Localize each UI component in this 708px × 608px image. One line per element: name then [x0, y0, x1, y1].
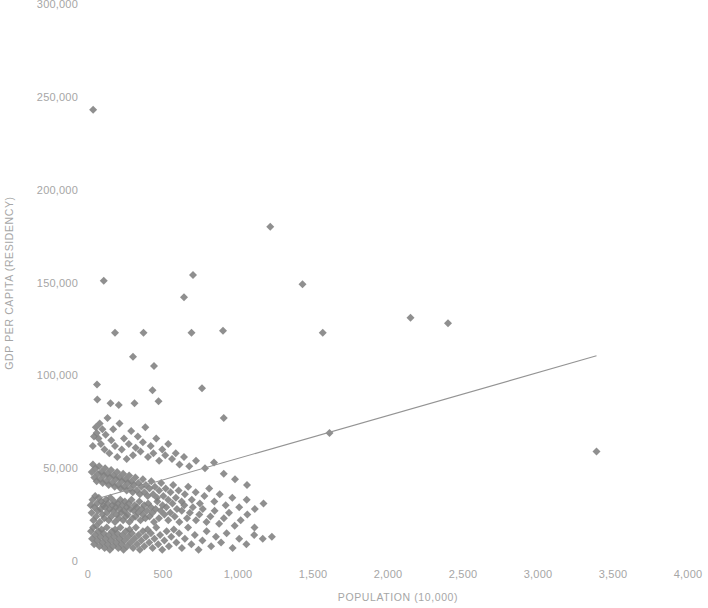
- scatter-point: [192, 457, 200, 465]
- x-tick-label: 2,000: [374, 568, 403, 580]
- scatter-point: [107, 399, 115, 407]
- scatter-point: [113, 453, 121, 461]
- x-tick-label: 0: [85, 568, 91, 580]
- scatter-point: [260, 499, 268, 507]
- y-tick-label: 250,000: [37, 91, 78, 103]
- scatter-point: [235, 503, 243, 511]
- scatter-point: [231, 475, 239, 483]
- scatter-point: [198, 537, 206, 545]
- scatter-point: [268, 533, 276, 541]
- scatter-point: [211, 507, 219, 515]
- scatter-point: [203, 527, 211, 535]
- y-tick-label: 0: [72, 555, 78, 567]
- y-tick-label: 50,000: [43, 462, 78, 474]
- scatter-point: [123, 455, 131, 463]
- scatter-point: [207, 542, 215, 550]
- scatter-point: [231, 522, 239, 530]
- scatter-point: [180, 453, 188, 461]
- scatter-point: [217, 538, 225, 546]
- scatter-point: [407, 314, 415, 322]
- scatter-point: [266, 223, 274, 231]
- scatter-point: [251, 524, 259, 532]
- scatter-point: [187, 540, 195, 548]
- scatter-point: [220, 470, 228, 478]
- scatter-point: [299, 280, 307, 288]
- x-axis-ticks: 05001,0001,5002,0002,5003,0003,5004,000: [85, 568, 702, 580]
- scatter-point: [152, 434, 160, 442]
- scatter-point: [175, 486, 183, 494]
- scatter-point: [127, 427, 135, 435]
- scatter-point: [215, 520, 223, 528]
- scatter-point: [444, 319, 452, 327]
- scatter-point: [149, 386, 157, 394]
- scatter-point: [104, 414, 112, 422]
- scatter-point: [169, 481, 177, 489]
- x-tick-label: 4,000: [674, 568, 703, 580]
- scatter-point: [115, 401, 123, 409]
- scatter-point: [89, 442, 97, 450]
- scatter-point: [180, 293, 188, 301]
- scatter-point: [243, 511, 251, 519]
- scatter-point: [259, 535, 267, 543]
- scatter-point: [131, 399, 139, 407]
- scatter-point: [163, 527, 171, 535]
- x-tick-label: 3,500: [599, 568, 628, 580]
- scatter-point: [165, 542, 173, 550]
- y-tick-label: 100,000: [37, 369, 78, 381]
- scatter-point: [205, 485, 213, 493]
- scatter-point: [120, 434, 128, 442]
- scatter-point: [222, 501, 230, 509]
- scatter-point: [89, 106, 97, 114]
- scatter-point: [243, 481, 251, 489]
- x-axis-title: POPULATION (10,000): [338, 591, 458, 603]
- scatter-point: [220, 514, 228, 522]
- scatter-point: [220, 414, 228, 422]
- scatter-point: [319, 329, 327, 337]
- scatter-point: [225, 509, 233, 517]
- scatter-point: [93, 395, 101, 403]
- scatter-point: [116, 420, 124, 428]
- scatter-points: [87, 106, 601, 554]
- y-tick-label: 150,000: [37, 277, 78, 289]
- scatter-point: [216, 490, 224, 498]
- x-tick-label: 1,000: [224, 568, 253, 580]
- scatter-point: [237, 516, 245, 524]
- scatter-point: [118, 446, 126, 454]
- scatter-point: [155, 457, 163, 465]
- scatter-point: [198, 384, 206, 392]
- scatter-point: [188, 329, 196, 337]
- x-tick-label: 1,500: [299, 568, 328, 580]
- scatter-point: [191, 531, 199, 539]
- scatter-point: [184, 524, 192, 532]
- scatter-point: [185, 462, 193, 470]
- scatter-point: [175, 518, 183, 526]
- chart-canvas: 05001,0001,5002,0002,5003,0003,5004,000 …: [0, 0, 708, 608]
- scatter-point: [134, 433, 142, 441]
- scatter-point: [164, 440, 172, 448]
- scatter-point: [184, 483, 192, 491]
- scatter-point: [223, 529, 231, 537]
- scatter-chart: 05001,0001,5002,0002,5003,0003,5004,000 …: [0, 0, 708, 608]
- scatter-point: [189, 271, 197, 279]
- y-tick-label: 200,000: [37, 184, 78, 196]
- scatter-point: [178, 544, 186, 552]
- scatter-point: [129, 353, 137, 361]
- x-tick-label: 2,500: [449, 568, 478, 580]
- scatter-point: [167, 533, 175, 541]
- y-axis-title: GDP PER CAPITA (RESIDENCY): [3, 196, 15, 369]
- x-tick-label: 500: [154, 568, 173, 580]
- scatter-point: [228, 494, 236, 502]
- x-tick-label: 3,000: [524, 568, 553, 580]
- scatter-point: [243, 496, 251, 504]
- scatter-point: [140, 329, 148, 337]
- scatter-point: [250, 531, 258, 539]
- scatter-point: [109, 425, 117, 433]
- scatter-point: [195, 546, 203, 554]
- scatter-point: [155, 397, 163, 405]
- scatter-point: [100, 277, 108, 285]
- scatter-point: [242, 540, 250, 548]
- scatter-point: [141, 423, 149, 431]
- trendline: [97, 356, 597, 499]
- scatter-point: [251, 505, 259, 513]
- scatter-point: [219, 327, 227, 335]
